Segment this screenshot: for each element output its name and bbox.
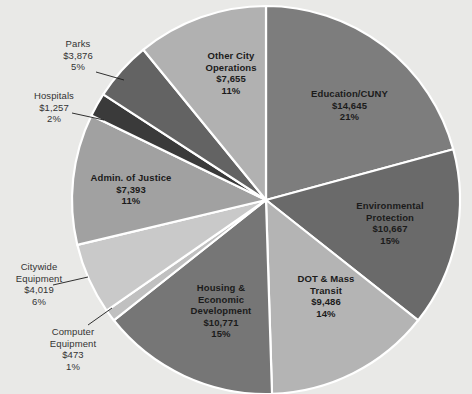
slice-label-environmental-protection: Environmental Protection $10,667 15% [335, 200, 445, 246]
slice-label-hospitals: Hospitals $1,257 2% [12, 90, 96, 125]
slice-label-education-cuny: Education/CUNY $14,645 21% [287, 88, 412, 123]
slice-label-citywide-equipment: Citywide Equipment $4,019 6% [0, 261, 78, 307]
pie-chart: Education/CUNY $14,645 21% Environmental… [0, 0, 472, 394]
slice-label-parks: Parks $3,876 5% [36, 38, 120, 73]
slice-label-dot-mass-transit: DOT & Mass Transit $9,486 14% [276, 273, 376, 319]
leader-line-computer-equipment [88, 308, 112, 325]
slice-label-other-city-operations: Other City Operations $7,655 11% [181, 50, 281, 96]
slice-label-computer-equipment: Computer Equipment $473 1% [32, 326, 114, 372]
slice-label-admin-of-justice: Admin. of Justice $7,393 11% [71, 172, 191, 207]
slice-label-housing-economic-development: Housing & Economic Development $10,771 1… [166, 282, 276, 340]
